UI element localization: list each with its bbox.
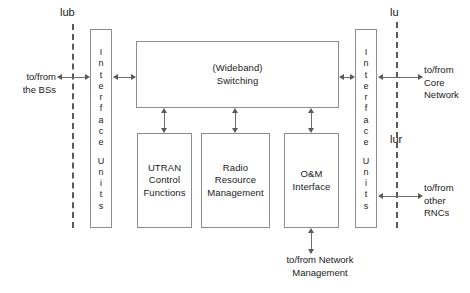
iu-right-char-n2: n: [363, 167, 368, 178]
arrowhead-to-iu-right-lower: [378, 193, 383, 199]
arrowhead-to-switching-right: [339, 74, 344, 80]
arrowhead-to-bs: [57, 74, 62, 80]
iu-right-char-e: e: [363, 81, 368, 92]
arrowhead-to-other-rncs: [418, 193, 423, 199]
iu-right-char-I: I: [365, 47, 368, 58]
connector-iu-boundary-to-core-network: [397, 77, 419, 78]
wideband-switching-block: (Wideband) Switching: [136, 41, 339, 108]
utran-control-functions-label: UTRAN Control Functions: [143, 162, 185, 200]
iu-right-char-t2: t: [365, 189, 368, 200]
connector-iu-right-to-iu-boundary: [383, 77, 397, 78]
arrowhead-to-iu-left-inner: [113, 74, 118, 80]
endpoint-label-network-management: to/from Network Management: [258, 254, 382, 279]
arrowhead-to-core-network: [418, 74, 423, 80]
arrowhead-to-om: [308, 128, 314, 133]
iu-right-char-s: s: [364, 201, 369, 212]
iu-left-char-I: I: [100, 47, 103, 58]
connector-switching-to-utran: [164, 112, 165, 129]
arrowhead-to-switching-from-om: [308, 108, 314, 113]
interface-units-left: I n t e r f a c e U n i t s: [90, 29, 112, 228]
iu-right-char-f: f: [365, 103, 368, 114]
wideband-switching-label: (Wideband) Switching: [212, 62, 262, 87]
arrowhead-to-om-from-network-management: [308, 228, 314, 233]
iu-left-char-a: a: [98, 115, 103, 126]
arrowhead-to-switching-from-utran: [161, 108, 167, 113]
connector-om-to-network-management: [311, 232, 312, 250]
connector-switching-to-radio-resource: [235, 112, 236, 129]
utran-control-functions-block: UTRAN Control Functions: [137, 133, 192, 228]
connector-iu-right-to-iur-boundary: [383, 196, 397, 197]
connector-iur-boundary-to-other-rncs: [397, 196, 419, 197]
om-interface-block: O&M Interface: [284, 133, 339, 228]
om-interface-label: O&M Interface: [293, 168, 331, 193]
iu-left-char-U: U: [98, 156, 105, 167]
arrowhead-to-radio-resource: [232, 128, 238, 133]
iu-right-char-U: U: [363, 156, 370, 167]
radio-resource-management-label: Radio Resource Management: [207, 162, 263, 200]
arrowhead-to-switching-left: [131, 74, 136, 80]
iu-right-char-t: t: [365, 70, 368, 81]
arrowhead-to-utran: [161, 128, 167, 133]
iu-iur-boundary-line: [396, 22, 398, 228]
interface-label-iu: lu: [390, 6, 399, 18]
iu-left-char-r: r: [100, 92, 103, 103]
iu-right-char-e: e: [363, 137, 368, 148]
interface-units-right: I n t e r f a c e U n i t s: [355, 29, 377, 228]
iub-boundary-line: [72, 24, 74, 228]
arrowhead-to-iu-right-outer: [378, 74, 383, 80]
iu-left-char-e: e: [98, 81, 103, 92]
interface-label-iub: lub: [60, 6, 75, 18]
arrowhead-to-network-management: [308, 249, 314, 254]
iu-left-char-n: n: [98, 58, 103, 69]
iu-right-char-i: i: [365, 178, 367, 189]
iu-right-char-n: n: [363, 58, 368, 69]
connector-switching-to-om: [311, 112, 312, 129]
arrowhead-to-iu-left: [85, 74, 90, 80]
iu-right-char-r: r: [365, 92, 368, 103]
iu-left-char-n2: n: [98, 167, 103, 178]
iu-left-char-i: i: [100, 178, 102, 189]
iu-left-char-t2: t: [100, 189, 103, 200]
iu-right-char-a: a: [363, 115, 368, 126]
iu-left-char-e: e: [98, 137, 103, 148]
radio-resource-management-block: Radio Resource Management: [201, 133, 270, 228]
iu-left-char-s: s: [99, 201, 104, 212]
rnc-architecture-diagram: lub lu lur I n t e r f a c e U n i t s I…: [0, 0, 470, 293]
connector-boundary-to-iu-left: [73, 77, 85, 78]
iu-left-char-t: t: [100, 70, 103, 81]
endpoint-label-core-network: to/from Core Network: [424, 64, 468, 102]
endpoint-label-other-rncs: to/from other RNCs: [424, 182, 468, 220]
iu-left-char-f: f: [100, 103, 103, 114]
iu-right-char-c: c: [364, 126, 369, 137]
iu-left-char-c: c: [99, 126, 104, 137]
endpoint-label-bs: to/from the BSs: [4, 71, 56, 96]
arrowhead-to-iu-right-inner: [350, 74, 355, 80]
arrowhead-to-switching-from-radio-resource: [232, 108, 238, 113]
